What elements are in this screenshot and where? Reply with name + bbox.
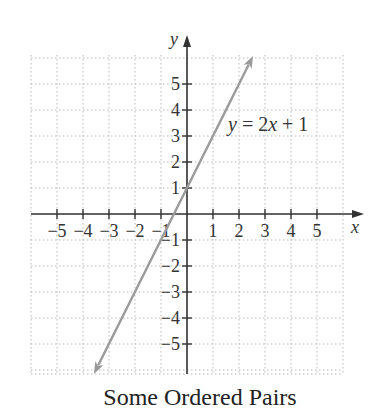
equation-label: y = 2x + 1: [226, 113, 308, 136]
x-tick-label: 1: [209, 221, 218, 241]
y-tick-label: 3: [171, 126, 180, 146]
x-tick-label: 5: [313, 221, 322, 241]
y-tick-label: −2: [161, 256, 180, 276]
x-tick-label: −2: [125, 221, 144, 241]
equation-var-y: y: [226, 113, 237, 136]
x-tick-label: 4: [287, 221, 296, 241]
x-tick-label: 2: [235, 221, 244, 241]
axes: [31, 35, 364, 374]
y-tick-label: 5: [171, 74, 180, 94]
x-tick-label: −5: [47, 221, 66, 241]
x-axis-label: x: [350, 217, 359, 237]
y-tick-label: −3: [161, 282, 180, 302]
y-tick-label: 1: [171, 178, 180, 198]
y-axis-label: y: [168, 29, 178, 49]
y-axis-arrow-icon: [183, 35, 191, 47]
chart-title: Some Ordered Pairs: [0, 384, 382, 411]
equation-var-x: x: [267, 113, 277, 135]
y-tick-label: −4: [161, 308, 180, 328]
y-tick-label: 2: [171, 152, 180, 172]
equation-tail: + 1: [277, 113, 308, 135]
x-tick-label: −3: [99, 221, 118, 241]
equation-eq-part: = 2: [237, 113, 268, 135]
x-tick-label: −4: [73, 221, 92, 241]
y-tick-label: −5: [161, 334, 180, 354]
y-tick-label: 4: [171, 100, 180, 120]
chart-plot: −5−4−3−2−112345−5−4−3−2−112345 x y y = 2…: [0, 0, 382, 419]
x-tick-label: 3: [261, 221, 270, 241]
